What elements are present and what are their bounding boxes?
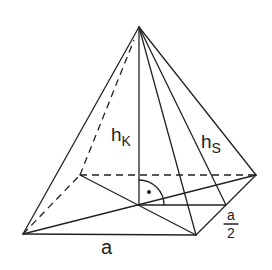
slant-height-line <box>139 27 226 205</box>
lateral-edge-front-left <box>23 27 139 234</box>
body-height-label: hK <box>111 124 132 149</box>
base-edge-front <box>23 234 196 235</box>
lateral-edge-back-right <box>139 27 256 175</box>
half-edge-numerator: a <box>227 207 235 223</box>
right-angle-dot <box>147 190 151 194</box>
slant-height-label: hS <box>201 131 221 156</box>
lateral-edge-front-right <box>139 27 196 235</box>
pyramid-diagram: hK hS a a 2 <box>0 0 272 270</box>
half-edge-denominator: 2 <box>227 225 235 241</box>
base-edge-label: a <box>101 236 113 258</box>
hidden-lateral-edge-back-left <box>80 40 134 175</box>
